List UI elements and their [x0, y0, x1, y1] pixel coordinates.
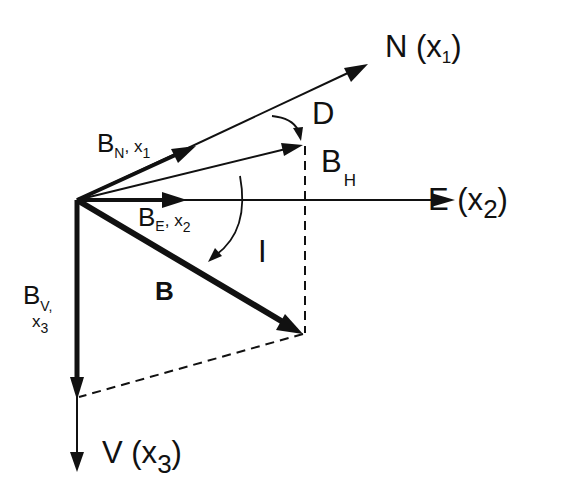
bn-label: BN, x1 — [97, 128, 150, 161]
inclination-label: I — [258, 234, 267, 269]
be-arrowhead-icon — [162, 192, 187, 208]
bn-arrowhead-icon — [171, 146, 196, 163]
vertical-axis-label: V (x3) — [102, 435, 182, 479]
magnetic-field-vector-diagram: N (x1) E (x2) V (x3) BN, x1 BE, x2 BV, x… — [0, 0, 574, 481]
bh-arrowhead-icon — [281, 143, 303, 156]
declination-label: D — [312, 96, 334, 131]
inclination-arc — [208, 176, 242, 262]
declination-arc — [272, 116, 303, 141]
inclination-arrowhead-icon — [208, 248, 222, 262]
bv-label: BV, — [23, 280, 52, 314]
east-axis-label: E (x2) — [428, 182, 508, 224]
bh-label: BH — [321, 144, 356, 190]
dashed-horizontal-projection — [79, 334, 303, 397]
bv-x3-label: x3 — [32, 312, 49, 336]
north-axis-label: N (x1) — [385, 29, 462, 67]
north-arrowhead-icon — [344, 64, 368, 82]
vertical-axis — [70, 200, 84, 472]
declination-arrowhead-icon — [293, 127, 303, 141]
vertical-arrowhead-icon — [70, 452, 84, 472]
b-total-label: B — [155, 276, 174, 306]
